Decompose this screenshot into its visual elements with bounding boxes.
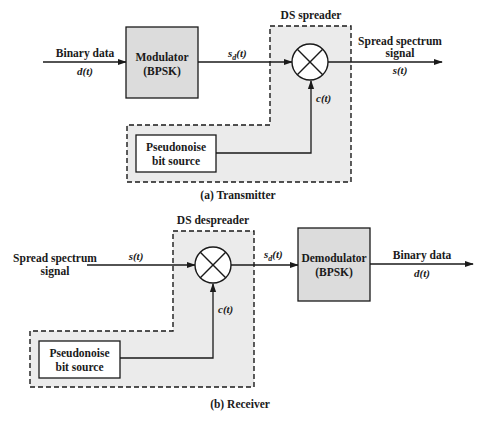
- output-signal-dt: d(t): [414, 267, 430, 280]
- ds-spreader-title: DS spreader: [281, 9, 342, 22]
- modulator-type: (BPSK): [143, 65, 181, 78]
- sd-signal-label: sd(t): [263, 248, 283, 263]
- receiver-caption: (b) Receiver: [210, 398, 270, 411]
- pn-source-sublabel: bit source: [55, 361, 103, 373]
- binary-data-output-label: Binary data: [393, 249, 452, 262]
- input-signal-dt: d(t): [77, 65, 93, 78]
- ds-spread-spectrum-diagram: Binary data d(t) Modulator (BPSK) sd(t) …: [0, 0, 479, 421]
- pn-source-sublabel: bit source: [152, 155, 200, 167]
- demodulator-block: [298, 228, 370, 301]
- pn-source-label: Pseudonoise: [49, 347, 109, 359]
- signal-output-label: signal: [386, 47, 415, 60]
- binary-data-input-label: Binary data: [56, 47, 115, 60]
- transmitter-diagram: Binary data d(t) Modulator (BPSK) sd(t) …: [43, 9, 442, 202]
- pn-source-label: Pseudonoise: [146, 141, 206, 153]
- input-signal-st: s(t): [128, 250, 144, 263]
- multiplier-icon: [292, 44, 328, 80]
- multiplier-icon: [195, 247, 231, 283]
- sd-signal-label: sd(t): [227, 47, 247, 62]
- output-signal-st: s(t): [392, 64, 408, 77]
- code-signal-ct: c(t): [218, 303, 233, 316]
- transmitter-caption: (a) Transmitter: [200, 189, 275, 202]
- receiver-diagram: DS despreader Spread spectrum signal s(t…: [13, 214, 473, 411]
- ds-despreader-title: DS despreader: [177, 214, 249, 227]
- demodulator-label: Demodulator: [301, 252, 366, 264]
- spread-spectrum-input-label: Spread spectrum: [13, 252, 97, 265]
- modulator-label: Modulator: [135, 51, 188, 63]
- signal-input-label: signal: [41, 265, 70, 278]
- demodulator-type: (BPSK): [315, 266, 353, 279]
- code-signal-ct: c(t): [316, 92, 331, 105]
